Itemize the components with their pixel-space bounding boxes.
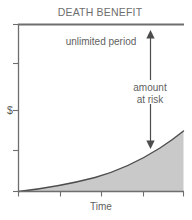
death-benefit-chart: DEATH BENEFIT $ Time unlimited period	[0, 0, 192, 220]
annotation-at-risk: at risk	[137, 94, 165, 105]
chart-title: DEATH BENEFIT	[58, 6, 143, 18]
chart-canvas: DEATH BENEFIT $ Time unlimited period	[0, 0, 192, 220]
annotation-amount: amount	[133, 82, 167, 93]
annotation-unlimited-period: unlimited period	[66, 36, 137, 47]
y-axis-label: $	[7, 104, 13, 116]
x-axis-label: Time	[90, 201, 112, 212]
